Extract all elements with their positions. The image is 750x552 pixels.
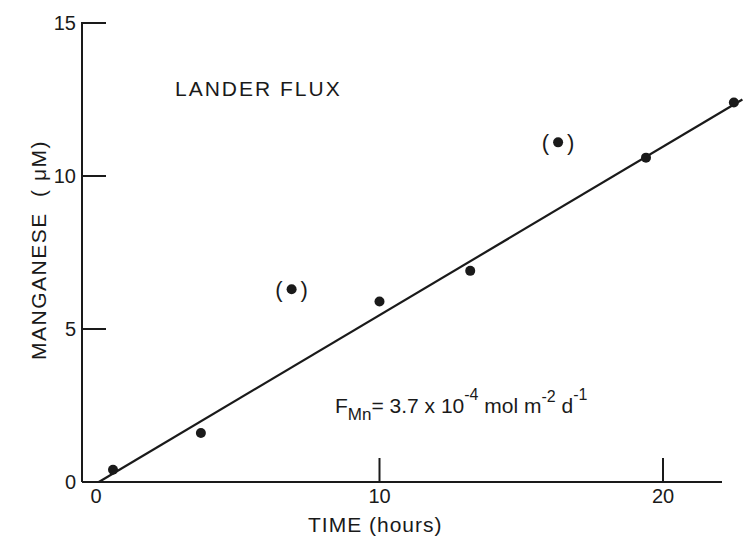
open-bracket: ( xyxy=(275,277,283,302)
open-bracket: ( xyxy=(542,130,550,155)
excluded-data-point xyxy=(287,284,297,294)
x-tick-label: 0 xyxy=(90,485,101,507)
y-axis-label: MANGANESE ( μM) xyxy=(27,140,50,360)
y-tick-label: 5 xyxy=(65,318,76,340)
y-tick-labels: 051015 xyxy=(54,12,76,493)
x-tick-label: 20 xyxy=(652,485,674,507)
close-bracket: ) xyxy=(301,277,308,302)
data-point xyxy=(196,428,206,438)
data-point xyxy=(108,465,118,475)
x-ticks xyxy=(380,458,664,482)
chart-title: LANDER FLUX xyxy=(175,77,342,100)
flux-annotation: FMn= 3.7 x 10-4 mol m-2 d-1 xyxy=(335,386,588,424)
y-tick-label: 0 xyxy=(65,471,76,493)
svg-text:MANGANESE ( μM): MANGANESE ( μM) xyxy=(27,140,50,360)
chart: 051015 01020 ()() LANDER FLUX MANGANESE … xyxy=(0,0,750,552)
data-point xyxy=(729,98,739,108)
y-tick-label: 10 xyxy=(54,165,76,187)
data-point xyxy=(375,296,385,306)
data-point xyxy=(641,153,651,163)
data-points: ()() xyxy=(108,98,739,475)
x-axis-label: TIME (hours) xyxy=(308,513,443,536)
x-tick-labels: 01020 xyxy=(90,485,674,507)
y-axis-label-main: MANGANESE xyxy=(27,212,50,360)
excluded-data-point xyxy=(553,137,563,147)
x-tick-label: 10 xyxy=(368,485,390,507)
close-bracket: ) xyxy=(567,130,574,155)
y-axis-label-unit: ( μM) xyxy=(27,140,50,197)
y-tick-label: 15 xyxy=(54,12,76,34)
y-ticks xyxy=(82,23,106,329)
data-point xyxy=(465,266,475,276)
